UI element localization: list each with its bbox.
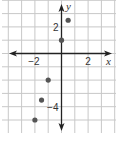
coordinate-plane: −222−4 x y [0,0,119,143]
data-point [32,117,37,122]
data-point [46,78,51,83]
data-point [39,97,44,102]
y-tick-label: −4 [47,102,59,113]
x-axis-label: x [105,55,111,67]
y-tick-label: 2 [53,22,59,33]
data-point [59,38,64,43]
data-point [66,18,71,23]
axes [9,4,112,131]
y-axis-label: y [65,0,71,12]
x-tick-label: −2 [28,56,40,67]
grid [2,0,116,133]
x-tick-label: 2 [85,56,91,67]
